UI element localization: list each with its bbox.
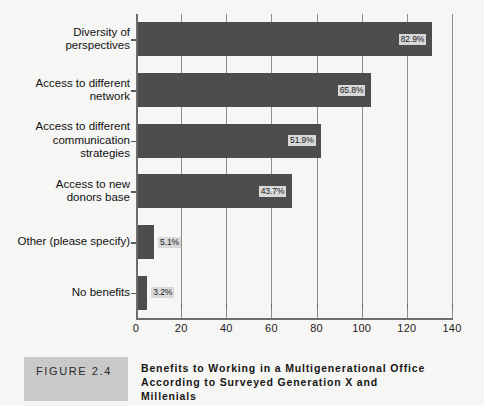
bar-value-label: 82.9%	[399, 34, 427, 45]
category-label: Access to different communication strate…	[2, 120, 130, 161]
x-tick-label-60: 60	[265, 322, 278, 334]
x-tick-140	[452, 304, 453, 309]
bar-value-label: 5.1%	[158, 237, 181, 248]
x-tick-0	[136, 304, 137, 309]
gridline-120	[407, 14, 408, 318]
figure-number-badge	[24, 357, 128, 401]
x-tick-label-40: 40	[220, 322, 233, 334]
x-tick-label-20: 20	[175, 322, 188, 334]
x-tick-100	[362, 304, 363, 309]
x-tick-label-140: 140	[443, 322, 462, 334]
gridline-140	[452, 14, 453, 318]
gridline-80	[317, 14, 318, 318]
gridline-60	[271, 14, 272, 318]
x-tick-label-100: 100	[352, 322, 371, 334]
category-label: Access to new donors base	[2, 178, 130, 205]
figure-caption-title: Benefits to Working in a Multigeneration…	[141, 361, 471, 403]
bar	[136, 276, 147, 310]
figure-caption: FIGURE 2.4 Benefits to Working in a Mult…	[0, 352, 484, 406]
x-tick-label-80: 80	[310, 322, 323, 334]
category-label: No benefits	[2, 286, 130, 300]
x-tick-40	[226, 304, 227, 309]
gridline-40	[226, 14, 227, 318]
bar	[136, 225, 154, 259]
x-tick-label-0: 0	[133, 322, 139, 334]
figure-container: Diversity of perspectivesAccess to diffe…	[0, 0, 484, 406]
gridline-100	[362, 14, 363, 318]
category-label: Other (please specify)	[2, 235, 130, 249]
x-tick-60	[271, 304, 272, 309]
bar	[136, 22, 432, 56]
x-tick-80	[317, 304, 318, 309]
bar-value-label: 51.9%	[288, 135, 316, 146]
category-label: Diversity of perspectives	[2, 26, 130, 53]
figure-number-label: FIGURE 2.4	[36, 365, 112, 377]
category-label: Access to different network	[2, 77, 130, 104]
bar	[136, 73, 371, 107]
bar-chart: Diversity of perspectivesAccess to diffe…	[0, 0, 484, 348]
x-tick-120	[407, 304, 408, 309]
category-axis: Diversity of perspectivesAccess to diffe…	[0, 0, 130, 348]
x-axis-line	[136, 318, 453, 320]
x-tick-label-120: 120	[397, 322, 416, 334]
gridline-20	[181, 14, 182, 318]
bar-value-label: 65.8%	[338, 85, 366, 96]
bar-value-label: 3.2%	[151, 287, 174, 298]
plot-area: 82.9%65.8%51.9%43.7%5.1%3.2%	[136, 14, 452, 318]
y-axis-line	[136, 14, 138, 319]
x-tick-20	[181, 304, 182, 309]
bar-value-label: 43.7%	[259, 186, 287, 197]
